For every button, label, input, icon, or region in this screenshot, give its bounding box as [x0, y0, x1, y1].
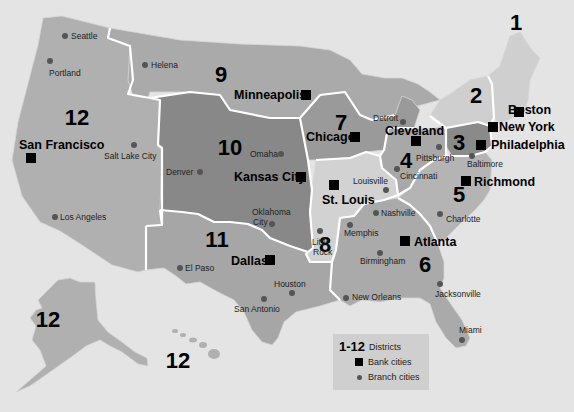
branch-city-label: Little [312, 237, 330, 247]
legend-bank-label: Bank cities [368, 357, 412, 367]
branch-city-dot-icon [383, 187, 389, 193]
branch-city-dot-icon [278, 151, 284, 157]
branch-city-label: New Orleans [352, 292, 401, 302]
branch-city-label: Seattle [71, 31, 98, 41]
district-number-label: 12 [166, 348, 190, 373]
branch-city-marker: Jacksonville [435, 281, 481, 299]
legend-districts-label: Districts [369, 342, 401, 352]
branch-city-dot-icon [261, 296, 267, 302]
branch-city-dot-icon [131, 142, 137, 148]
branch-city-label: Houston [274, 279, 306, 289]
alaska-region [16, 278, 148, 392]
branch-city-label: El Paso [185, 263, 215, 273]
branch-city-dot-icon [197, 169, 203, 175]
district-number-label: 12 [36, 307, 60, 332]
branch-city-dot-icon [47, 58, 53, 64]
bank-city-square-icon [476, 140, 486, 150]
bank-city-label: New York [499, 120, 555, 134]
branch-city-dot-icon [52, 214, 58, 220]
bank-city-label: Richmond [474, 175, 535, 189]
branch-city-dot-icon [289, 290, 295, 296]
branch-city-dot-icon [269, 221, 275, 227]
bank-city-square-icon [329, 180, 339, 190]
bank-city-label: Cleveland [385, 124, 444, 138]
branch-city-label: Salt Lake City [104, 151, 157, 161]
bank-city-label: Boston [508, 103, 551, 117]
branch-city-dot-icon [459, 337, 465, 343]
bank-city-square-icon [400, 236, 410, 246]
branch-city-label: Miami [459, 325, 482, 335]
district-number-label: 10 [218, 135, 242, 160]
bank-city-square-icon [26, 153, 36, 163]
branch-city-label: Los Angeles [60, 212, 106, 222]
branch-city-label: Rock [313, 247, 333, 257]
bank-city-label: St. Louis [322, 193, 375, 207]
branch-city-label: Baltimore [467, 159, 503, 169]
bank-city-label: Atlanta [414, 235, 457, 249]
bank-city-square-icon [488, 122, 498, 132]
legend-districts-range: 1-12 [339, 339, 365, 354]
bank-city-label: Philadelphia [491, 138, 566, 152]
branch-city-dot-icon [400, 119, 406, 125]
branch-city-label: Nashville [381, 208, 416, 218]
bank-city-label: Dallas [231, 254, 268, 268]
branch-city-dot-icon [142, 62, 148, 68]
district-2-region [430, 76, 494, 128]
branch-city-marker: Miami [459, 325, 482, 343]
federal-reserve-map: 1234567891011121212 BostonNew YorkPhilad… [0, 0, 574, 412]
legend-bank-cities: Bank cities [355, 357, 412, 367]
branch-city-label: San Antonio [234, 304, 280, 314]
branch-city-label: Charlotte [446, 214, 481, 224]
district-number-label: 4 [400, 148, 413, 173]
branch-city-marker: New Orleans [343, 292, 401, 302]
legend-branch-label: Branch cities [368, 372, 420, 382]
legend-branch-cities: Branch cities [355, 372, 420, 382]
branch-city-label: Detroit [373, 113, 399, 123]
bank-city-label: Chicago [306, 130, 356, 144]
branch-city-label: Denver [166, 167, 194, 177]
bank-city-marker: Boston [508, 103, 551, 117]
branch-city-dot-icon [437, 211, 443, 217]
branch-city-dot-icon [437, 281, 443, 287]
branch-city-label: Cincinnati [400, 171, 437, 181]
branch-city-dot-icon [436, 144, 442, 150]
district-number-label: 1 [510, 10, 522, 35]
branch-city-label: Jacksonville [435, 289, 481, 299]
branch-city-dot-icon [373, 210, 379, 216]
branch-city-label: City [253, 217, 268, 227]
branch-city-label: Portland [49, 68, 81, 78]
branch-city-label: Oklahoma [252, 207, 291, 217]
legend-districts: 1-12 Districts [339, 339, 401, 354]
bank-city-label: Kansas City [234, 170, 306, 184]
branch-city-label: Omaha [250, 149, 278, 159]
district-number-label: 2 [470, 83, 482, 108]
branch-city-label: Memphis [344, 228, 378, 238]
bank-city-marker: Kansas City [234, 170, 306, 184]
map-legend: 1-12 Districts Bank cities Branch cities [333, 334, 429, 390]
branch-city-label: Birmingham [360, 256, 405, 266]
bank-city-square-icon [461, 176, 471, 186]
branch-city-label: Helena [151, 60, 178, 70]
branch-city-dot-icon [357, 375, 362, 380]
district-number-label: 9 [215, 62, 227, 87]
district-number-label: 12 [65, 105, 89, 130]
branch-city-marker: Los Angeles [52, 212, 106, 222]
bank-city-marker: Minneapolis [234, 88, 311, 102]
bank-city-label: Minneapolis [234, 88, 306, 102]
district-number-label: 3 [453, 130, 465, 155]
bank-city-marker: New York [488, 120, 555, 134]
branch-city-dot-icon [62, 33, 68, 39]
district-number-label: 6 [419, 252, 431, 277]
bank-city-square-icon [355, 358, 363, 366]
bank-city-marker: Chicago [306, 130, 360, 144]
district-number-label: 11 [205, 227, 228, 252]
bank-city-label: San Francisco [19, 138, 105, 152]
branch-city-dot-icon [317, 228, 323, 234]
branch-city-dot-icon [343, 295, 349, 301]
branch-city-label: Louisville [353, 176, 388, 186]
branch-city-label: Pittsburgh [416, 153, 455, 163]
branch-city-dot-icon [177, 265, 183, 271]
